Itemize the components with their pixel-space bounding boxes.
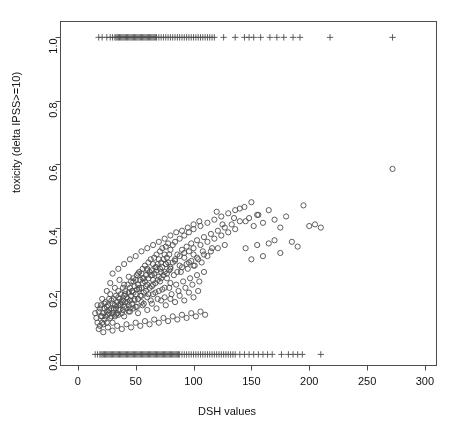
y-tick-label: 0.8: [47, 100, 59, 120]
y-tick-label: 0.4: [47, 227, 59, 247]
x-tick-label: 50: [130, 375, 142, 387]
x-tick-label: 100: [184, 375, 202, 387]
x-axis-label: DSH values: [0, 405, 454, 417]
scatter-plot-figure: DSH values toxicity (delta IPSS>=10) 050…: [0, 0, 454, 432]
x-tick-label: 250: [358, 375, 376, 387]
x-tick-label: 150: [242, 375, 260, 387]
plot-canvas: [0, 0, 454, 432]
x-tick-label: 300: [416, 375, 434, 387]
y-tick-label: 0.2: [47, 290, 59, 310]
y-tick-label: 0.0: [47, 353, 59, 373]
y-axis-label: toxicity (delta IPSS>=10): [10, 72, 22, 193]
y-tick-label: 0.6: [47, 163, 59, 183]
x-tick-label: 200: [300, 375, 318, 387]
x-tick-label: 0: [75, 375, 81, 387]
y-tick-label: 1.0: [47, 36, 59, 56]
